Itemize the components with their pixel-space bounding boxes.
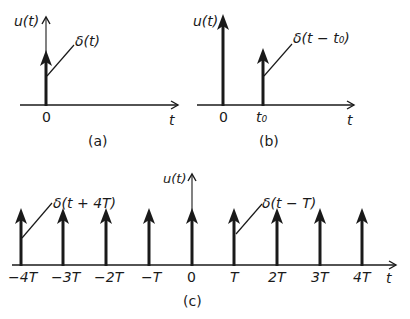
tick-T: T	[230, 270, 239, 284]
leader-line-b	[264, 44, 292, 76]
impulse-minus-T	[143, 208, 155, 266]
tick-0-b: 0	[219, 110, 228, 124]
impulse-at-zero-b	[217, 14, 229, 106]
impulse-train	[15, 208, 368, 266]
impulse-zero	[186, 208, 198, 266]
impulse-label-c-left: δ(t + 4T)	[53, 196, 116, 210]
tick-4T: 4T	[353, 270, 370, 284]
impulse-T	[228, 208, 240, 266]
tick-minus-T: −T	[141, 270, 161, 284]
x-axis-label-b: t	[347, 113, 353, 127]
leader-line-c-right	[236, 204, 262, 234]
impulse-4T	[356, 208, 368, 266]
caption-a: (a)	[88, 134, 108, 148]
y-axis-label-b: u(t)	[193, 14, 218, 28]
impulse-delta-t-a	[40, 50, 52, 106]
panel-c	[12, 174, 396, 266]
impulse-minus-4T	[15, 208, 27, 266]
leader-line-c-left	[22, 203, 52, 238]
tick-zero: 0	[187, 270, 196, 284]
x-axis-label-c: t	[386, 271, 392, 285]
impulse-label-c-right: δ(t − T)	[262, 196, 316, 210]
x-axis-label-a: t	[169, 113, 175, 127]
impulse-2T	[271, 208, 283, 266]
impulse-minus-2T	[100, 208, 112, 266]
tick-0-a: 0	[42, 110, 51, 124]
impulse-minus-3T	[57, 208, 69, 266]
y-axis-label-c: u(t)	[163, 172, 186, 185]
impulse-label-b: δ(t − t₀)	[293, 31, 350, 45]
caption-c: (c)	[183, 294, 202, 308]
impulse-label-a: δ(t)	[75, 34, 100, 48]
panel-a	[20, 17, 178, 106]
tick-minus-2T: −2T	[94, 270, 123, 284]
y-axis-label-a: u(t)	[14, 14, 39, 28]
caption-b: (b)	[259, 134, 279, 148]
tick-3T: 3T	[311, 270, 328, 284]
tick-2T: 2T	[268, 270, 285, 284]
impulse-at-t0-b	[257, 48, 269, 106]
tick-minus-4T: −4T	[8, 270, 37, 284]
tick-minus-3T: −3T	[51, 270, 80, 284]
impulse-3T	[314, 208, 326, 266]
panel-b	[197, 14, 354, 106]
leader-line-a	[47, 45, 74, 76]
tick-t0-b: t₀	[256, 110, 267, 124]
